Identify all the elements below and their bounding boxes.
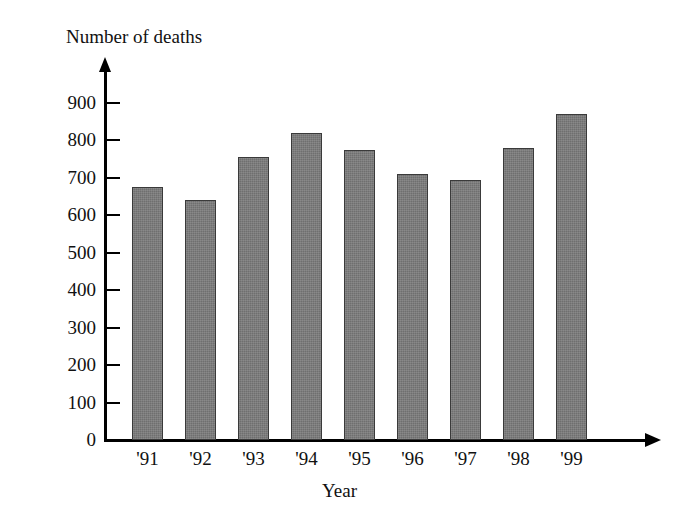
y-axis-tick — [107, 102, 120, 104]
bar — [238, 157, 269, 440]
bar — [132, 187, 163, 440]
x-axis-tick-label: '93 — [227, 448, 281, 470]
bar — [185, 200, 216, 440]
x-axis-tick-label: '98 — [492, 448, 546, 470]
y-axis-tick — [107, 327, 120, 329]
bar — [344, 150, 375, 440]
x-axis-title: Year — [0, 480, 679, 502]
x-axis-tick-label: '92 — [174, 448, 228, 470]
y-axis-tick-label-text: 700 — [54, 168, 96, 187]
y-axis-tick-label-text: 200 — [54, 355, 96, 374]
y-axis-tick — [107, 364, 120, 366]
y-axis-tick — [107, 214, 120, 216]
bar — [556, 114, 587, 440]
x-axis-tick-label: '96 — [386, 448, 440, 470]
y-axis-tick-label-text: 300 — [54, 318, 96, 337]
y-axis-tick — [107, 139, 120, 141]
x-axis-tick-label: '97 — [439, 448, 493, 470]
y-axis-tick-label-text: 0 — [54, 430, 96, 449]
x-axis-tick-label: '99 — [545, 448, 599, 470]
x-axis-tick-label: '91 — [121, 448, 175, 470]
y-axis-line — [104, 70, 107, 442]
y-axis-tick — [107, 252, 120, 254]
chart-page: Number of deaths 90080070060050040030020… — [0, 0, 679, 517]
bar — [450, 180, 481, 440]
y-axis-tick-label-text: 800 — [54, 130, 96, 149]
y-axis-tick-label-text: 100 — [54, 393, 96, 412]
y-axis-tick-label-text: 500 — [54, 243, 96, 262]
y-axis-tick-label-text: 900 — [54, 93, 96, 112]
y-axis-tick-label-text: 600 — [54, 205, 96, 224]
x-axis-arrow-icon — [645, 433, 661, 447]
y-axis-tick — [107, 289, 120, 291]
y-axis-tick — [107, 177, 120, 179]
x-axis-tick-label: '94 — [280, 448, 334, 470]
y-axis-tick — [107, 402, 120, 404]
y-axis-arrow-icon — [99, 57, 111, 72]
bar — [503, 148, 534, 440]
x-axis-tick-label: '95 — [333, 448, 387, 470]
bar — [397, 174, 428, 440]
plot-area: 9008007006005004003002001000 '91'92'93'9… — [0, 0, 679, 517]
bar — [291, 133, 322, 440]
y-axis-tick-label-text: 400 — [54, 280, 96, 299]
